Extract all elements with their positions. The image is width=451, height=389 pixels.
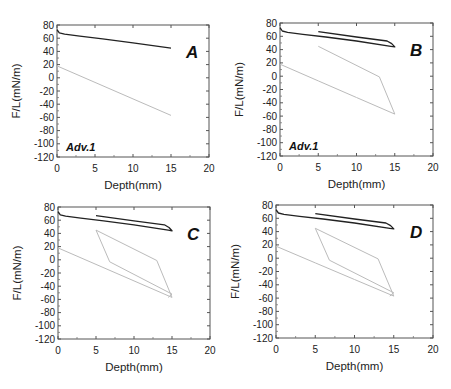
y-tick-label: -60 (259, 293, 274, 304)
series-light-line (280, 46, 395, 114)
y-tick-label: 40 (43, 46, 55, 57)
y-tick-label: 20 (262, 239, 274, 250)
x-axis-title: Depth(mm) (326, 360, 384, 372)
y-tick-label: 60 (44, 215, 56, 226)
series-dark-line (280, 28, 395, 47)
y-tick-label: 20 (44, 241, 56, 252)
y-tick-label: -120 (257, 151, 277, 162)
panel-letter: D (410, 223, 422, 242)
x-tick-label: 0 (54, 163, 60, 174)
x-tick-label: 15 (389, 162, 401, 173)
series-light-line (58, 230, 172, 297)
y-tick-label: 0 (48, 72, 54, 83)
y-tick-label: 40 (44, 228, 56, 239)
x-tick-label: 10 (349, 344, 361, 355)
x-tick-label: 15 (166, 345, 178, 356)
y-tick-label: -80 (41, 307, 56, 318)
y-tick-label: 0 (267, 253, 273, 264)
x-tick-label: 10 (351, 162, 363, 173)
y-tick-label: 80 (266, 18, 278, 29)
y-axis-title: F/L(mN/m) (10, 63, 22, 118)
x-axis-title: Depth(mm) (104, 179, 162, 191)
x-tick-label: 20 (427, 162, 439, 173)
y-tick-label: -40 (263, 97, 278, 108)
y-tick-label: -20 (41, 268, 56, 279)
y-tick-label: -20 (40, 86, 55, 97)
y-tick-label: -40 (40, 99, 55, 110)
y-tick-label: -100 (253, 319, 273, 330)
series-dark-line (58, 212, 172, 231)
y-tick-label: 60 (262, 213, 274, 224)
figure: 806040200-20-40-60-80-100-12005101520Dep… (0, 0, 451, 389)
x-tick-label: 20 (204, 345, 216, 356)
x-tick-label: 10 (128, 345, 140, 356)
panel-annotation: Adv.1 (65, 141, 95, 153)
panel-letter: C (187, 225, 200, 244)
y-tick-label: 20 (43, 59, 55, 70)
panel-letter: B (410, 41, 422, 60)
x-tick-label: 10 (127, 163, 139, 174)
y-tick-label: 80 (44, 202, 56, 213)
x-tick-label: 15 (388, 344, 400, 355)
y-tick-label: 40 (262, 226, 274, 237)
y-tick-label: -120 (35, 334, 55, 345)
y-tick-label: 0 (49, 254, 55, 265)
panel-annotation: Adv.1 (288, 140, 318, 152)
y-tick-label: -60 (263, 111, 278, 122)
y-tick-label: 60 (266, 31, 278, 42)
y-tick-label: -120 (34, 152, 54, 163)
x-tick-label: 5 (93, 345, 99, 356)
chart-panel-b: 806040200-20-40-60-80-100-12005101520Dep… (233, 18, 439, 191)
y-tick-label: 80 (262, 200, 274, 211)
y-tick-label: -80 (40, 125, 55, 136)
y-tick-label: 80 (43, 20, 55, 31)
chart-panel-c: 806040200-20-40-60-80-100-12005101520Dep… (11, 202, 216, 374)
x-tick-label: 5 (92, 163, 98, 174)
x-tick-label: 0 (273, 344, 279, 355)
series-light-line (57, 66, 171, 116)
x-tick-label: 15 (165, 163, 177, 174)
series-dark-line (276, 210, 394, 229)
y-tick-label: -100 (35, 320, 55, 331)
y-tick-label: -80 (259, 306, 274, 317)
y-tick-label: 0 (271, 71, 277, 82)
x-tick-label: 5 (312, 344, 318, 355)
y-tick-label: -20 (259, 266, 274, 277)
y-tick-label: -120 (253, 333, 273, 344)
y-tick-label: -40 (41, 281, 56, 292)
x-tick-label: 20 (203, 163, 215, 174)
y-axis-title: F/L(mN/m) (233, 62, 245, 117)
y-tick-label: -80 (263, 124, 278, 135)
y-axis-title: F/L(mN/m) (229, 244, 241, 299)
panel-letter: A (185, 43, 198, 62)
y-tick-label: 60 (43, 33, 55, 44)
y-tick-label: 20 (266, 57, 278, 68)
y-tick-label: -60 (40, 112, 55, 123)
x-tick-label: 0 (55, 345, 61, 356)
y-tick-label: -20 (263, 84, 278, 95)
x-tick-label: 20 (427, 344, 439, 355)
y-tick-label: -60 (41, 294, 56, 305)
x-tick-label: 0 (277, 162, 283, 173)
series-light-line (276, 228, 394, 296)
series-dark-line (57, 30, 171, 48)
y-tick-label: -100 (257, 137, 277, 148)
chart-panel-d: 806040200-20-40-60-80-100-12005101520Dep… (229, 200, 439, 373)
y-axis-title: F/L(mN/m) (11, 245, 23, 300)
x-axis-title: Depth(mm) (328, 178, 386, 190)
y-tick-label: 40 (266, 44, 278, 55)
x-tick-label: 5 (315, 162, 321, 173)
chart-panel-a: 806040200-20-40-60-80-100-12005101520Dep… (10, 20, 215, 192)
y-tick-label: -40 (259, 279, 274, 290)
x-axis-title: Depth(mm) (105, 361, 163, 373)
y-tick-label: -100 (34, 138, 54, 149)
